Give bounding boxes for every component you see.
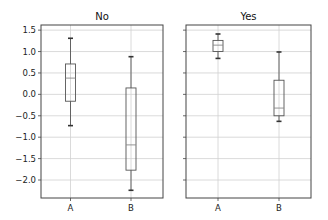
axes-frame [41, 25, 163, 198]
x-tick-label: A [215, 203, 221, 213]
y-tick-label: 1.0 [22, 47, 36, 57]
x-tick-label: A [68, 203, 74, 213]
y-tick-label: −2.0 [15, 175, 36, 185]
x-tick-label: B [276, 203, 282, 213]
panel-yes: ABYes [183, 11, 311, 213]
y-tick-label: 0.5 [22, 68, 36, 78]
y-tick-label: 0.0 [22, 89, 36, 99]
axes-frame [186, 25, 311, 198]
y-tick-label: −0.5 [15, 111, 36, 121]
panel-no: 1.51.00.50.0−0.5−1.0−1.5−2.0ABNo [15, 11, 163, 213]
y-tick-label: −1.0 [15, 132, 36, 142]
x-tick-label: B [128, 203, 134, 213]
panel-title: No [95, 11, 109, 22]
boxplot-figure: 1.51.00.50.0−0.5−1.0−1.5−2.0ABNo ABYes [0, 0, 328, 220]
y-tick-label: −1.5 [15, 154, 36, 164]
y-tick-label: 1.5 [22, 25, 36, 35]
panel-title: Yes [239, 11, 256, 22]
